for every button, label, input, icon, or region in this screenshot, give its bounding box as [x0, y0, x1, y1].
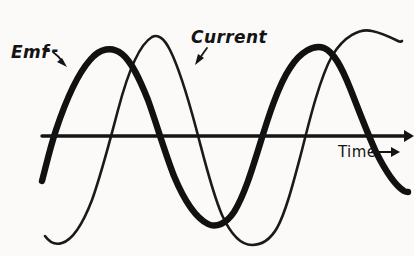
waveform-plot: Emf -- Current Time: [0, 0, 414, 256]
emf-label-dashes: --: [44, 40, 59, 60]
current-label: Current: [191, 27, 267, 47]
current-leader-arrowhead-icon: [195, 54, 204, 65]
time-label: Time: [337, 143, 376, 161]
time-axis-arrowhead-icon: [404, 130, 414, 142]
time-label-arrowhead-icon: [391, 147, 400, 157]
emf-current-phase-figure: Emf -- Current Time: [0, 0, 414, 256]
